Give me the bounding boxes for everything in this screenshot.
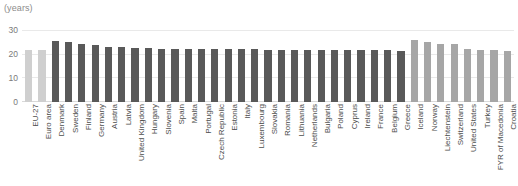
bar-fill	[238, 49, 245, 102]
bar-fill	[145, 48, 152, 102]
bar-fill	[291, 50, 298, 102]
bar-fill	[464, 49, 471, 102]
x-axis-label: Romania	[284, 104, 292, 136]
bar[interactable]	[185, 26, 192, 102]
bar[interactable]	[304, 26, 311, 102]
bar[interactable]	[264, 26, 271, 102]
bar-fill	[251, 49, 258, 102]
bar[interactable]	[371, 26, 378, 102]
bar-fill	[477, 50, 484, 102]
bar[interactable]	[38, 26, 45, 102]
bar-fill	[357, 50, 364, 102]
bar[interactable]	[464, 26, 471, 102]
x-axis-label: Norway	[431, 104, 439, 131]
bar[interactable]	[225, 26, 232, 102]
bar[interactable]	[251, 26, 258, 102]
bar-fill	[437, 44, 444, 102]
bar-fill	[92, 45, 99, 102]
x-axis-label: Liechtenstein	[444, 104, 452, 151]
x-axis-label: Belgium	[391, 104, 399, 133]
bar-fill	[185, 49, 192, 102]
bar[interactable]	[504, 26, 511, 102]
x-axis-label: Iceland	[417, 104, 425, 130]
bar[interactable]	[118, 26, 125, 102]
x-axis-label: Malta	[191, 104, 199, 124]
bar-fill	[278, 50, 285, 102]
x-axis-label: EU-27	[32, 104, 40, 127]
y-axis-tick-label: 30	[9, 27, 18, 36]
x-axis-labels-group: EU-27Euro areaDenmarkSwedenFinlandGerman…	[22, 104, 514, 186]
x-axis-label: Turkey	[484, 104, 492, 128]
bar[interactable]	[437, 26, 444, 102]
bar[interactable]	[92, 26, 99, 102]
bar-fill	[384, 50, 391, 102]
y-axis-unit-label: (years)	[4, 3, 33, 13]
x-axis-label: Netherlands	[311, 104, 319, 147]
bar[interactable]	[331, 26, 338, 102]
bar-fill	[171, 49, 178, 102]
bar-fill	[318, 50, 325, 102]
bar[interactable]	[344, 26, 351, 102]
bar[interactable]	[65, 26, 72, 102]
bar[interactable]	[158, 26, 165, 102]
x-axis-label: Finland	[85, 104, 93, 130]
y-axis-tick-label: 10	[9, 74, 18, 83]
y-axis-tick-label: 20	[9, 50, 18, 59]
bar[interactable]	[291, 26, 298, 102]
bar-fill	[490, 50, 497, 102]
bar-fill	[38, 50, 45, 102]
x-axis-label: Euro area	[45, 104, 53, 139]
bar[interactable]	[198, 26, 205, 102]
x-axis-label: Lithuania	[298, 104, 306, 136]
bar-fill	[211, 49, 218, 102]
bar-fill	[264, 50, 271, 102]
x-axis-label: Cyprus	[351, 104, 359, 129]
x-axis-label: Latvia	[125, 104, 133, 125]
bar[interactable]	[357, 26, 364, 102]
x-axis-label: Germany	[98, 104, 106, 137]
bar-fill	[131, 48, 138, 102]
bar[interactable]	[384, 26, 391, 102]
bar-fill	[158, 49, 165, 102]
bar[interactable]	[424, 26, 431, 102]
bar[interactable]	[145, 26, 152, 102]
bar[interactable]	[411, 26, 418, 102]
x-axis-label: Hungary	[151, 104, 159, 134]
bar-fill	[344, 50, 351, 102]
bar[interactable]	[131, 26, 138, 102]
x-axis-label: Denmark	[58, 104, 66, 136]
bar[interactable]	[278, 26, 285, 102]
x-axis-label: Portugal	[205, 104, 213, 134]
bar-fill	[304, 50, 311, 102]
x-axis-label: Greece	[404, 104, 412, 130]
x-axis-label: Spain	[178, 104, 186, 124]
bar-fill	[504, 51, 511, 102]
bar-fill	[118, 47, 125, 102]
x-axis-label: Slovenia	[165, 104, 173, 135]
bar-fill	[52, 41, 59, 102]
bar-fill	[371, 50, 378, 102]
bar[interactable]	[451, 26, 458, 102]
bar[interactable]	[105, 26, 112, 102]
bar-fill	[65, 42, 72, 102]
bar[interactable]	[318, 26, 325, 102]
bar[interactable]	[52, 26, 59, 102]
x-axis-label: Luxembourg	[258, 104, 266, 148]
x-axis-label: Ireland	[364, 104, 372, 128]
x-axis-label: Czech Republic	[218, 104, 226, 160]
bar[interactable]	[25, 26, 32, 102]
bar[interactable]	[490, 26, 497, 102]
x-axis-label: Switzerland	[457, 104, 465, 145]
bar[interactable]	[238, 26, 245, 102]
bar[interactable]	[211, 26, 218, 102]
bar[interactable]	[397, 26, 404, 102]
plot-area: 0102030	[22, 26, 514, 102]
bar-fill	[411, 40, 418, 102]
bar-fill	[397, 51, 404, 102]
bar[interactable]	[477, 26, 484, 102]
bar-fill	[424, 42, 431, 102]
bar-fill	[78, 44, 85, 102]
bar[interactable]	[171, 26, 178, 102]
bar[interactable]	[78, 26, 85, 102]
x-axis-label: Sweden	[72, 104, 80, 133]
